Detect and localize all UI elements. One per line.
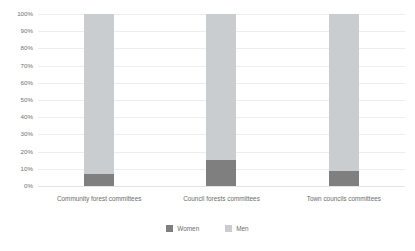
legend-label: Women (177, 224, 199, 233)
gridline (38, 186, 405, 187)
bar-column[interactable] (38, 14, 160, 186)
bar-segment-women[interactable] (206, 160, 236, 186)
x-axis-category-label: Council forests committees (183, 193, 260, 204)
y-axis-tick-label: 0% (24, 181, 33, 191)
y-axis-tick-label: 70% (21, 61, 33, 71)
chart-legend: WomenMen (0, 224, 415, 233)
bar-column[interactable] (283, 14, 405, 186)
plot-area: 0%10%20%30%40%50%60%70%80%90%100% (38, 14, 405, 186)
y-axis-tick-label: 30% (21, 129, 33, 139)
legend-item-women[interactable]: Women (166, 224, 199, 233)
bar-segment-men[interactable] (84, 14, 114, 174)
legend-swatch-women (166, 225, 173, 232)
bar-stack[interactable] (84, 14, 114, 186)
legend-swatch-men (225, 225, 232, 232)
y-axis-tick-label: 90% (21, 26, 33, 36)
bar-segment-men[interactable] (329, 14, 359, 171)
stacked-percentage-chart: 0%10%20%30%40%50%60%70%80%90%100% Commun… (0, 0, 415, 251)
legend-item-men[interactable]: Men (225, 224, 248, 233)
y-axis-tick-label: 40% (21, 112, 33, 122)
x-axis-category-label: Community forest committees (57, 193, 142, 204)
bar-stack[interactable] (206, 14, 236, 186)
y-axis-tick-label: 10% (21, 164, 33, 174)
bar-stack[interactable] (329, 14, 359, 186)
y-axis-tick-label: 50% (21, 95, 33, 105)
y-axis-tick-label: 20% (21, 147, 33, 157)
x-axis-category-label: Town councils committees (307, 193, 381, 204)
legend-label: Men (236, 224, 248, 233)
x-axis-category-labels: Community forest committeesCouncil fores… (38, 193, 405, 207)
bar-column[interactable] (160, 14, 282, 186)
bar-segment-women[interactable] (84, 174, 114, 186)
bar-segment-women[interactable] (329, 171, 359, 186)
bar-segment-men[interactable] (206, 14, 236, 160)
y-axis-tick-label: 80% (21, 43, 33, 53)
y-axis-tick-label: 100% (17, 9, 33, 19)
y-axis-tick-label: 60% (21, 78, 33, 88)
bar-columns (38, 14, 405, 186)
